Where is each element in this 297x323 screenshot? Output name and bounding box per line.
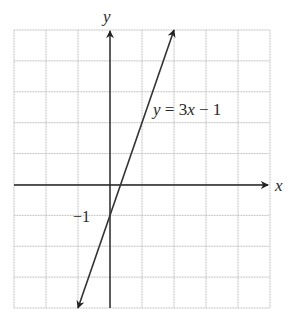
coordinate-plane: y x −1 y = 3x − 1 (0, 0, 297, 323)
y-axis-label: y (101, 7, 111, 26)
x-axis-label: x (274, 176, 283, 195)
grid (14, 30, 270, 308)
intercept-label: −1 (73, 208, 90, 225)
equation-label: y = 3x − 1 (151, 100, 221, 119)
function-line (78, 30, 174, 308)
